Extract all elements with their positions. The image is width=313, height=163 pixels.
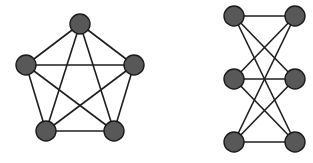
edge-right-bottom-left [46, 65, 134, 131]
complete-graph-k5 [16, 14, 144, 141]
node-top-left [224, 6, 244, 26]
node-bottom-right [285, 132, 305, 152]
node-middle-left [224, 69, 244, 89]
edge-left-bottom-right [26, 65, 114, 131]
node-top-right [285, 6, 305, 26]
complete-bipartite-graph-k33 [224, 6, 305, 152]
k5-nodes [16, 14, 144, 141]
graph-diagram-canvas [0, 0, 313, 163]
edge-top-bottom-right [80, 24, 114, 131]
node-bottom-left [36, 121, 56, 141]
edge-top-bottom-left [46, 24, 80, 131]
node-middle-right [285, 69, 305, 89]
k5-edges [26, 24, 134, 131]
node-top [70, 14, 90, 34]
node-bottom-left [224, 132, 244, 152]
node-left [16, 55, 36, 75]
node-bottom-right [104, 121, 124, 141]
node-right [124, 55, 144, 75]
